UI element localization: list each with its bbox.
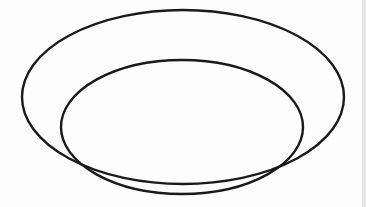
- edge-strip: [362, 0, 366, 207]
- euler-diagram: [0, 0, 366, 207]
- diagram-canvas: [0, 0, 366, 207]
- inner-ellipse: [61, 60, 303, 194]
- outer-ellipse: [22, 10, 344, 184]
